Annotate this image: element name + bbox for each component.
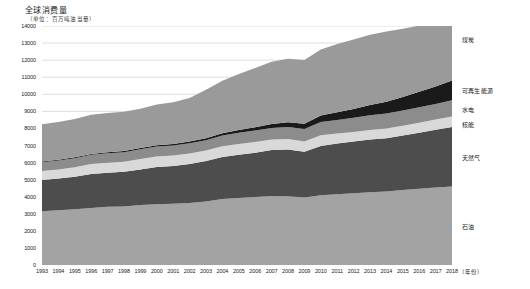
y-axis-tick-label: 12000 xyxy=(0,57,36,63)
x-axis-tick-label: 2009 xyxy=(298,268,310,274)
legend-label-4: 水电 xyxy=(462,105,474,114)
x-axis-tick-label: 2003 xyxy=(200,268,212,274)
y-axis-tick-label: 6000 xyxy=(0,160,36,166)
y-axis-tick-label: 10000 xyxy=(0,91,36,97)
x-axis-label: （年份） xyxy=(459,268,483,276)
legend-label-3: 核能 xyxy=(462,119,474,128)
legend-label-5: 可再生能源 xyxy=(462,86,493,95)
y-axis-tick-label: 0 xyxy=(0,262,36,268)
legend-label-2: 天然气 xyxy=(462,152,481,161)
y-axis-tick-label: 13000 xyxy=(0,40,36,46)
x-axis-tick-label: 2007 xyxy=(266,268,278,274)
x-axis-tick-label: 2005 xyxy=(233,268,245,274)
chart-title: 全球消费量 xyxy=(25,4,67,15)
x-axis-tick-label: 2012 xyxy=(348,268,360,274)
y-axis-tick-label: 9000 xyxy=(0,108,36,114)
x-axis-tick-label: 2013 xyxy=(364,268,376,274)
area-series-group xyxy=(42,26,452,265)
x-axis-tick-label: 2017 xyxy=(430,268,442,274)
y-axis-tick-label: 14000 xyxy=(0,23,36,29)
x-axis-tick-label: 2010 xyxy=(315,268,327,274)
x-axis-tick-label: 2001 xyxy=(167,268,179,274)
legend-label-1: 石油 xyxy=(462,221,474,230)
y-axis-tick-label: 1000 xyxy=(0,245,36,251)
x-axis-tick-label: 2018 xyxy=(446,268,458,274)
y-axis-tick-label: 4000 xyxy=(0,194,36,200)
x-axis-tick-label: 2011 xyxy=(331,268,342,274)
x-axis-tick-label: 2006 xyxy=(249,268,261,274)
x-axis-tick-label: 1996 xyxy=(85,268,97,274)
legend-label-6: 煤炭 xyxy=(462,34,474,43)
x-axis-tick-label: 2008 xyxy=(282,268,294,274)
x-axis-tick-label: 1995 xyxy=(69,268,81,274)
x-axis-tick-label: 2015 xyxy=(397,268,409,274)
y-axis-tick-label: 2000 xyxy=(0,228,36,234)
x-axis-tick-label: 2014 xyxy=(380,268,392,274)
x-axis-tick-label: 1997 xyxy=(102,268,114,274)
y-axis-tick-label: 11000 xyxy=(0,74,36,80)
x-axis-tick-label: 1999 xyxy=(134,268,146,274)
y-axis-tick-label: 3000 xyxy=(0,211,36,217)
plot-area xyxy=(42,26,452,265)
x-axis-tick-label: 2004 xyxy=(216,268,228,274)
x-axis-tick-label: 2000 xyxy=(151,268,163,274)
x-axis-tick-label: 1994 xyxy=(52,268,64,274)
chart-figure: 全球消费量 （单位：百万吨油当量） 0100020003000400050006… xyxy=(0,0,530,289)
x-axis-tick-label: 2002 xyxy=(184,268,196,274)
y-axis-tick-label: 8000 xyxy=(0,125,36,131)
y-axis-tick-label: 5000 xyxy=(0,177,36,183)
chart-subtitle: （单位：百万吨油当量） xyxy=(27,15,95,23)
stacked-area-chart xyxy=(42,26,452,265)
y-axis-tick-label: 7000 xyxy=(0,143,36,149)
x-axis-tick-label: 2016 xyxy=(413,268,425,274)
x-axis-tick-label: 1993 xyxy=(36,268,48,274)
x-axis-tick-label: 1998 xyxy=(118,268,130,274)
